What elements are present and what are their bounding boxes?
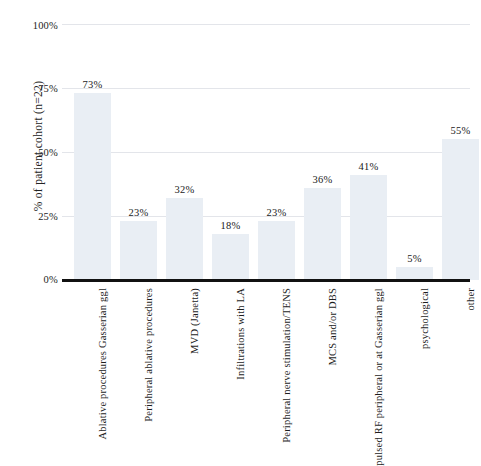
y-tick-25: 25%	[8, 211, 58, 222]
x-axis-labels: Ablative procedures Gasserian ggl Periph…	[62, 0, 470, 466]
x-label-ablative-gasserian: Ablative procedures Gasserian ggl	[97, 288, 108, 440]
y-tick-50: 50%	[8, 147, 58, 158]
x-label-mcs-dbs: MCS and/or DBS	[327, 288, 338, 365]
y-tick-75: 75%	[8, 83, 58, 94]
x-label-pns-tens: Peripheral nerve stimulation/TENS	[281, 288, 292, 443]
x-label-mvd-janetta: MVD (Janetta)	[189, 288, 200, 354]
x-label-other: other	[465, 288, 476, 311]
x-label-peripheral-ablative: Peripheral ablative procedures	[143, 288, 154, 422]
y-tick-0: 0%	[8, 274, 58, 285]
x-label-infiltrations-la: Infiltrations with LA	[235, 288, 246, 380]
bar-chart: % of patient cohort (n=22) 100% 75% 50% …	[0, 0, 481, 466]
x-label-psychological: psychological	[419, 288, 430, 349]
x-label-pulsed-rf: pulsed RF peripheral or at Gasserian ggl	[373, 288, 384, 466]
y-axis-ticks: 100% 75% 50% 25% 0%	[0, 0, 58, 466]
y-tick-100: 100%	[8, 20, 58, 31]
